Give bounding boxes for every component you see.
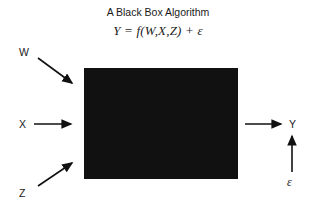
arrow-z-to-box [38, 163, 72, 186]
figure-title: A Black Box Algorithm [0, 6, 316, 19]
input-label-z: Z [19, 187, 25, 199]
output-label-y: Y [289, 118, 296, 130]
input-label-w: W [19, 46, 29, 58]
arrow-w-to-box [38, 58, 72, 83]
figure-formula: Y = f(W,X,Z) + ε [0, 23, 316, 39]
figure-canvas: A Black Box Algorithm Y = f(W,X,Z) + ε W… [0, 0, 316, 213]
black-box-rectangle [84, 68, 238, 179]
input-label-x: X [19, 118, 26, 130]
noise-label-epsilon: ε [287, 176, 292, 189]
